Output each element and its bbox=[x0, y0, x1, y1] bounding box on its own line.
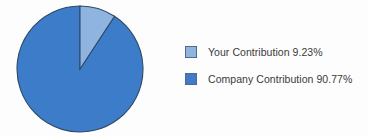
pie-chart-plot-area bbox=[14, 3, 146, 134]
legend-item-your-contribution[interactable]: Your Contribution 9.23% bbox=[185, 38, 365, 65]
legend-swatch-company-contribution bbox=[185, 73, 197, 85]
pie-slices bbox=[17, 6, 143, 132]
pie-chart-svg bbox=[14, 3, 146, 134]
legend-label-company-contribution: Company Contribution 90.77% bbox=[208, 73, 352, 85]
legend-item-company-contribution[interactable]: Company Contribution 90.77% bbox=[185, 65, 365, 92]
legend-swatch-your-contribution bbox=[185, 46, 197, 58]
legend-label-your-contribution: Your Contribution 9.23% bbox=[208, 46, 323, 58]
chart-legend: Your Contribution 9.23% Company Contribu… bbox=[185, 38, 365, 92]
pie-chart-figure: Your Contribution 9.23% Company Contribu… bbox=[0, 0, 368, 136]
